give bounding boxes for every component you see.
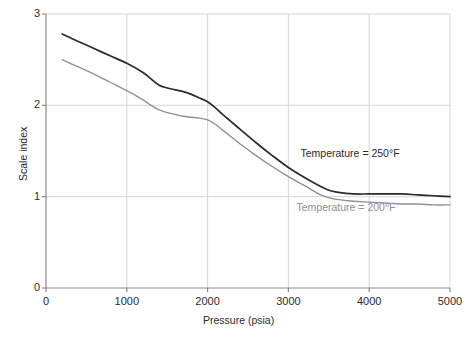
y-tick-label: 1: [20, 191, 40, 202]
x-axis-title: Pressure (psia): [203, 315, 274, 326]
chart-plot-area: [0, 0, 474, 337]
x-tick-label: 3000: [258, 296, 318, 307]
x-tick-label: 4000: [339, 296, 399, 307]
series-line-250f: [62, 34, 450, 197]
series-annotation-200f: Temperature = 200°F: [296, 202, 395, 213]
y-tick-label: 3: [20, 8, 40, 19]
y-tick-label: 2: [20, 99, 40, 110]
x-tick-label: 1000: [97, 296, 157, 307]
series-line-200f: [62, 60, 450, 205]
data-series-lines: [62, 34, 450, 205]
series-annotation-250f: Temperature = 250°F: [301, 148, 400, 159]
x-tick-label: 5000: [420, 296, 474, 307]
x-tick-label: 2000: [178, 296, 238, 307]
x-tick-label: 0: [16, 296, 76, 307]
y-axis-title: Scale index: [18, 127, 29, 181]
scale-index-vs-pressure-chart: 0123 010002000300040005000 Temperature =…: [0, 0, 474, 337]
y-tick-label: 0: [20, 282, 40, 293]
